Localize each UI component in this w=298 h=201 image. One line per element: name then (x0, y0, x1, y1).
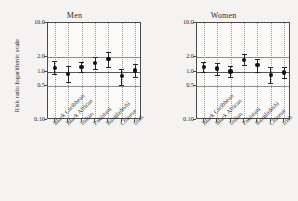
x-tick-mark (270, 119, 271, 122)
error-bar-cap-lower (255, 72, 260, 73)
error-bar-cap-upper (66, 66, 71, 67)
x-tick-mark (230, 119, 231, 122)
error-bar-cap-upper (52, 61, 57, 62)
error-bar-cap-upper (201, 62, 206, 63)
data-point (129, 23, 141, 119)
x-tick-mark (67, 119, 68, 122)
marker-dot (255, 63, 259, 67)
x-tick-mark (54, 119, 55, 122)
error-bar-cap-upper (79, 62, 84, 63)
y-tick-mark (193, 119, 196, 120)
error-bar-cap-lower (106, 67, 111, 68)
marker-dot (282, 70, 286, 74)
error-bar-cap-upper (255, 59, 260, 60)
x-tick-mark (134, 119, 135, 122)
marker-dot (79, 65, 83, 69)
error-bar-cap-upper (282, 67, 287, 68)
error-bar-cap-lower (215, 75, 220, 76)
x-tick-mark (256, 119, 257, 122)
marker-dot (93, 61, 97, 65)
data-point (49, 23, 61, 119)
forest-plot-figure: Risk ratio logarithmic scale Men Women 1… (0, 0, 298, 201)
marker-dot (106, 57, 110, 61)
x-tick-mark (107, 119, 108, 122)
data-point (198, 23, 210, 119)
error-bar-cap-lower (242, 65, 247, 66)
y-tick-mark (193, 85, 196, 86)
x-tick-mark (121, 119, 122, 122)
panel-title-men: Men (0, 11, 149, 20)
y-tick-mark (193, 56, 196, 57)
y-tick-mark (44, 22, 47, 23)
data-point (278, 23, 290, 119)
marker-dot (242, 58, 246, 62)
error-bar-cap-lower (79, 72, 84, 73)
error-bar-cap-lower (93, 69, 98, 70)
error-bar-cap-upper (93, 57, 98, 58)
error-bar-cap-lower (66, 82, 71, 83)
marker-dot (215, 66, 219, 70)
x-tick-mark (243, 119, 244, 122)
error-bar-cap-upper (268, 67, 273, 68)
y-tick-mark (193, 71, 196, 72)
data-point (102, 23, 114, 119)
error-bar-cap-lower (52, 74, 57, 75)
x-tick-mark (81, 119, 82, 122)
y-tick-mark (44, 71, 47, 72)
y-tick-mark (44, 85, 47, 86)
x-tick-mark (94, 119, 95, 122)
marker-dot (133, 68, 137, 72)
error-bar-cap-upper (119, 69, 124, 70)
x-tick-mark (203, 119, 204, 122)
marker-dot (269, 73, 273, 77)
y-tick-mark (44, 56, 47, 57)
error-bar-cap-upper (228, 66, 233, 67)
error-bar-cap-upper (215, 63, 220, 64)
panel-title-women: Women (149, 11, 298, 20)
x-tick-mark (283, 119, 284, 122)
error-bar-cap-lower (228, 77, 233, 78)
y-tick-mark (193, 22, 196, 23)
marker-dot (120, 74, 124, 78)
error-bar-cap-upper (133, 64, 138, 65)
error-bar-cap-upper (106, 52, 111, 53)
y-tick-mark (44, 119, 47, 120)
x-tick-mark (216, 119, 217, 122)
marker-dot (66, 72, 70, 76)
marker-dot (53, 66, 57, 70)
marker-dot (202, 65, 206, 69)
data-point (251, 23, 263, 119)
error-bar-cap-lower (201, 72, 206, 73)
error-bar-cap-lower (119, 85, 124, 86)
error-bar-cap-upper (242, 54, 247, 55)
error-bar-cap-lower (268, 83, 273, 84)
marker-dot (228, 69, 232, 73)
error-bar-cap-lower (282, 78, 287, 79)
error-bar-cap-lower (133, 77, 138, 78)
